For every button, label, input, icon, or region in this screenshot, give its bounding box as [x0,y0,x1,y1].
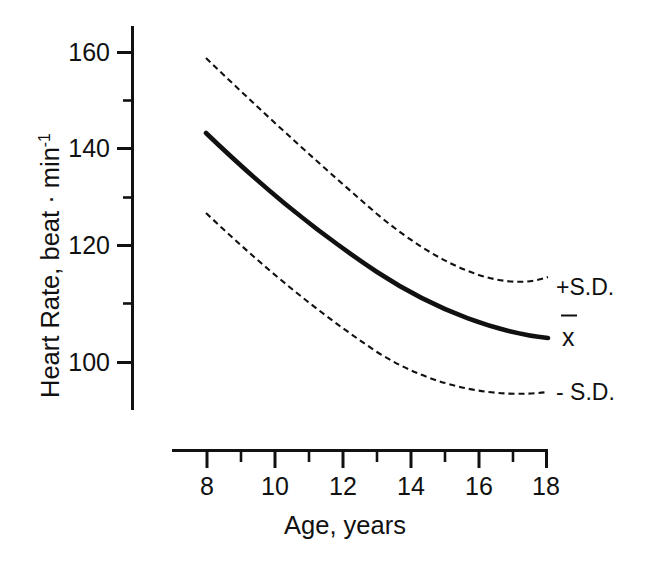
y-axis-title: Heart Rate, beat · min-1 [38,0,64,398]
mean-overbar [561,315,577,317]
x-tick-label-12: 12 [329,474,357,499]
curve-plus-sd [206,58,548,282]
x-tick-label-10: 10 [261,474,289,499]
x-axis-title: Age, years [284,513,406,539]
curve-minus-sd [206,213,548,394]
series-label-mean-text: x [562,323,575,351]
y-axis-title-exponent: -1 [36,133,53,147]
y-minor-ticks [123,101,132,304]
y-major-ticks [117,53,132,363]
series-label-plus-sd: +S.D. [556,276,614,299]
x-tick-label-8: 8 [200,474,214,499]
y-axis-title-text: Heart Rate, beat · min [36,147,64,398]
x-tick-label-16: 16 [465,474,493,499]
curve-mean [206,133,548,338]
x-tick-label-14: 14 [397,474,425,499]
x-tick-label-18: 18 [532,474,560,499]
series-label-mean: x [562,325,575,350]
heart-rate-age-chart: 160 140 120 100 8 10 12 14 16 18 Heart R… [0,0,647,565]
x-minor-ticks [241,451,513,462]
series-label-minus-sd: - S.D. [556,381,615,404]
